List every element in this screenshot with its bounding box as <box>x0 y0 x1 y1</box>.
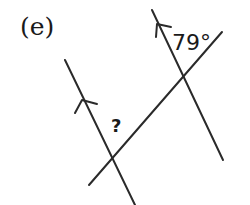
diagram-canvas: (e) 79° ? <box>0 0 250 205</box>
unknown-angle-label: ? <box>111 117 121 135</box>
left-parallel-line <box>65 60 135 205</box>
known-angle-label: 79° <box>172 32 211 54</box>
left-arrowhead-icon <box>75 100 97 113</box>
part-label: (e) <box>20 14 54 39</box>
